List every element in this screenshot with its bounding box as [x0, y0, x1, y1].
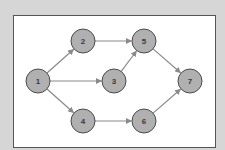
- node-label: 1: [36, 77, 41, 86]
- node-label: 5: [142, 37, 147, 46]
- node-4: 4: [71, 109, 95, 133]
- node-7: 7: [178, 69, 202, 93]
- node-1: 1: [26, 69, 50, 93]
- node-label: 4: [81, 117, 86, 126]
- node-6: 6: [132, 109, 156, 133]
- node-label: 6: [142, 117, 147, 126]
- node-label: 7: [188, 77, 193, 86]
- node-label: 2: [81, 37, 86, 46]
- node-2: 2: [71, 29, 95, 53]
- node-5: 5: [132, 29, 156, 53]
- node-label: 3: [112, 77, 117, 86]
- network-diagram: 1234567: [0, 0, 225, 150]
- node-3: 3: [102, 69, 126, 93]
